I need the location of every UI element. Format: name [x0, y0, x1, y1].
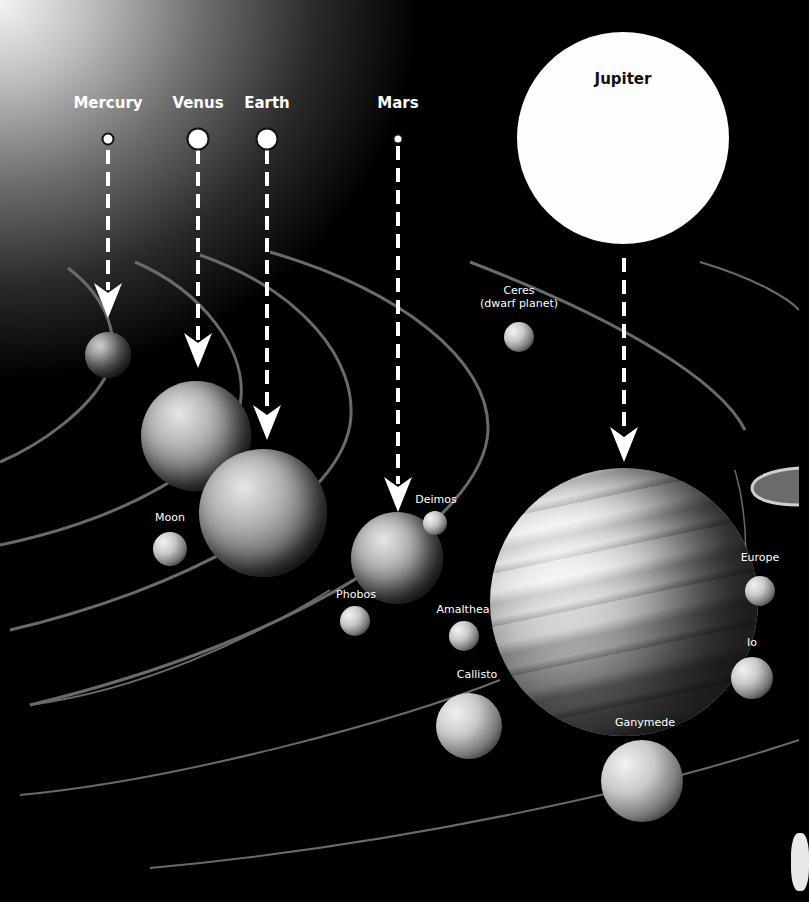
caption-ganymede: Ganymede	[615, 716, 675, 729]
size-marker-earth	[256, 128, 279, 151]
label-earth: Earth	[244, 94, 290, 112]
body-moon	[153, 532, 187, 566]
body-ganymede	[601, 740, 683, 822]
planet-jupiter	[490, 468, 758, 736]
size-marker-mercury	[102, 133, 115, 146]
caption-ceres: Ceres (dwarf planet)	[480, 284, 558, 310]
orbit-jupiter-3	[150, 740, 799, 868]
orbit-jupiter-2	[20, 680, 500, 795]
label-jupiter: Jupiter	[595, 70, 652, 88]
saturn-ring-edge	[752, 468, 799, 505]
orbit-jupiter-1	[30, 590, 330, 705]
body-europe	[745, 576, 775, 606]
label-mars: Mars	[377, 94, 418, 112]
size-marker-jupiter	[517, 32, 729, 244]
caption-callisto: Callisto	[457, 668, 497, 681]
body-io	[731, 657, 773, 699]
caption-io: Io	[747, 636, 757, 649]
caption-phobos: Phobos	[336, 588, 376, 601]
size-marker-mars	[393, 134, 404, 145]
body-callisto	[436, 693, 502, 759]
body-phobos	[340, 606, 370, 636]
arrowhead-earth	[253, 405, 281, 440]
caption-amalthea: Amalthea	[437, 603, 490, 616]
body-ceres	[504, 322, 534, 352]
caption-deimos: Deimos	[415, 493, 456, 506]
label-mercury: Mercury	[73, 94, 142, 112]
orbit-outer	[700, 262, 799, 310]
partial-body-bottom-right	[791, 833, 809, 891]
caption-europe: Europe	[741, 551, 780, 564]
arrowhead-jupiter	[610, 427, 638, 462]
planet-earth	[199, 449, 327, 577]
body-deimos	[423, 511, 447, 535]
body-amalthea	[449, 621, 479, 651]
size-marker-venus	[187, 128, 210, 151]
caption-moon: Moon	[155, 511, 185, 524]
label-venus: Venus	[172, 94, 223, 112]
planet-mercury	[85, 332, 131, 378]
